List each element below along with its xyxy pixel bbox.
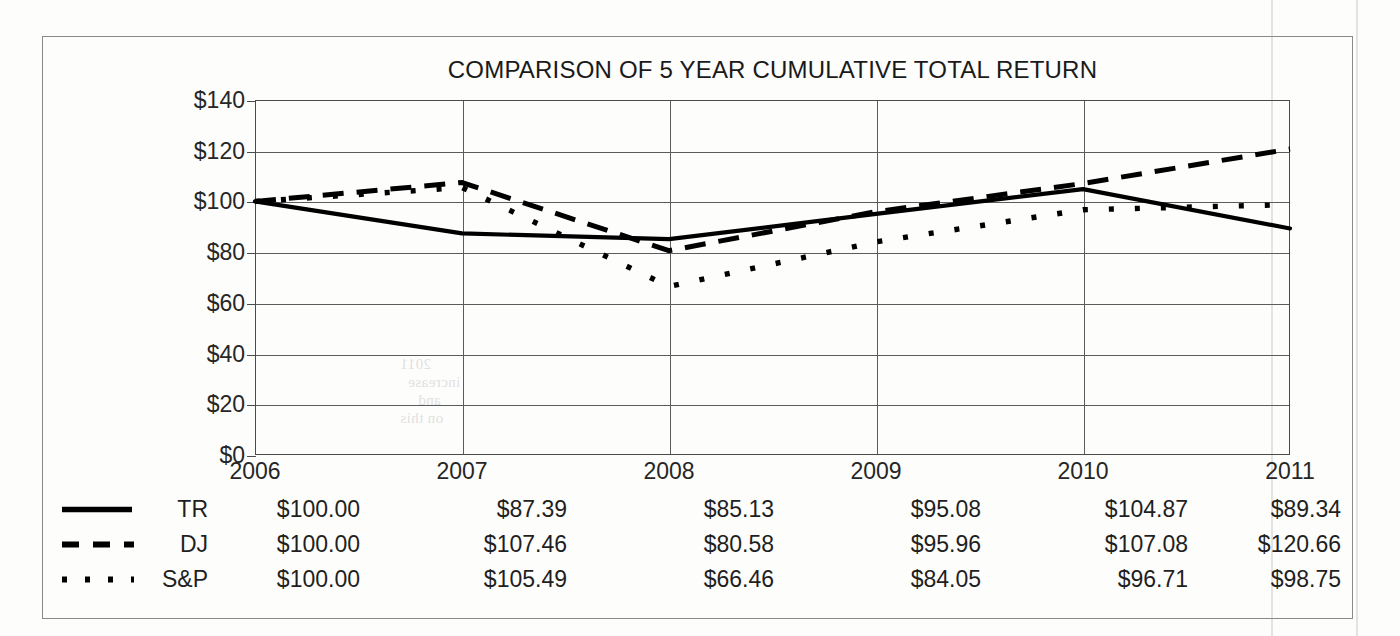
series-line-tr: [255, 189, 1290, 239]
series-label-dj: DJ: [138, 527, 208, 562]
table-cell: $80.58: [624, 527, 774, 562]
table-cell: $98.75: [1191, 562, 1341, 597]
x-tick-label: 2009: [806, 458, 946, 485]
x-tick-label: 2010: [1013, 458, 1153, 485]
x-tick-label: 2007: [392, 458, 532, 485]
page-bleed-line-right: [1356, 0, 1358, 636]
table-cell: $120.66: [1191, 527, 1341, 562]
table-cell: $100.00: [210, 527, 360, 562]
table-cell: $107.08: [1038, 527, 1188, 562]
table-cell: $89.34: [1191, 492, 1341, 527]
table-cell: $104.87: [1038, 492, 1188, 527]
table-cell: $85.13: [624, 492, 774, 527]
y-tick-label: $100: [135, 188, 245, 215]
x-tick-label: 2008: [599, 458, 739, 485]
table-cell: $84.05: [831, 562, 981, 597]
y-tick-mark: [247, 456, 256, 457]
y-tick-label: $40: [135, 340, 245, 367]
x-tick-label: 2006: [185, 458, 325, 485]
series-label-tr: TR: [138, 492, 208, 527]
x-tick-label: 2011: [1220, 458, 1360, 485]
y-tick-label: $20: [135, 391, 245, 418]
table-cell: $100.00: [210, 492, 360, 527]
table-cell: $107.46: [417, 527, 567, 562]
table-cell: $100.00: [210, 562, 360, 597]
series-value-table: TR $100.00 $87.39 $85.13 $95.08 $104.87 …: [60, 492, 1340, 597]
table-cell: $95.96: [831, 527, 981, 562]
table-cell: $87.39: [417, 492, 567, 527]
table-row: TR $100.00 $87.39 $85.13 $95.08 $104.87 …: [60, 492, 1340, 527]
y-axis-labels: $140 $120 $100 $80 $60 $40 $20 $0: [135, 100, 245, 455]
series-line-sp: [255, 188, 1290, 287]
y-tick-label: $120: [135, 137, 245, 164]
series-label-sp: S&P: [138, 562, 208, 597]
scanned-chart-page: 2011 increase and on this COMPARISON OF …: [0, 0, 1400, 636]
x-axis-labels: 2006 2007 2008 2009 2010 2011: [255, 458, 1290, 490]
table-cell: $105.49: [417, 562, 567, 597]
y-tick-label: $80: [135, 239, 245, 266]
chart-title: COMPARISON OF 5 YEAR CUMULATIVE TOTAL RE…: [255, 56, 1290, 84]
legend-swatch-solid: [60, 492, 138, 527]
y-tick-label: $140: [135, 87, 245, 114]
table-cell: $66.46: [624, 562, 774, 597]
table-cell: $95.08: [831, 492, 981, 527]
y-tick-label: $60: [135, 289, 245, 316]
table-cell: $96.71: [1038, 562, 1188, 597]
table-row: S&P $100.00 $105.49 $66.46 $84.05 $96.71…: [60, 562, 1340, 597]
series-plot-lines: [255, 100, 1290, 455]
table-row: DJ $100.00 $107.46 $80.58 $95.96 $107.08…: [60, 527, 1340, 562]
legend-swatch-dotted: [60, 562, 138, 597]
legend-swatch-dashed: [60, 527, 138, 562]
